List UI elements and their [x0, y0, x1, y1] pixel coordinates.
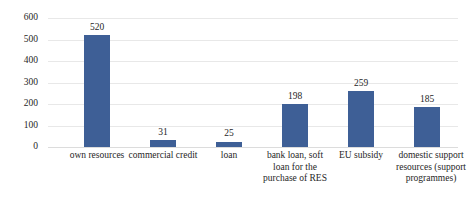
x-label-loan: loan	[198, 150, 260, 162]
bar-value-label: 25	[224, 129, 234, 139]
bar-commercial-credit[interactable]	[150, 140, 176, 147]
bar-slot: 31	[132, 18, 194, 147]
bar-value-label: 520	[90, 23, 104, 33]
bar-value-label: 259	[354, 79, 368, 89]
bar-slot: 198	[264, 18, 326, 147]
x-label-domestic-support-resources: domestic support resources (support prog…	[392, 150, 470, 185]
x-axis: own resources commercial credit loan ban…	[48, 150, 458, 214]
bar-value-label: 185	[420, 95, 434, 105]
bar-value-label: 31	[158, 128, 168, 138]
x-label-own-resources: own resources	[58, 150, 136, 162]
x-label-eu-subsidy: EU subsidy	[330, 150, 392, 162]
y-tick-label: 600	[24, 13, 38, 23]
y-tick-label: 100	[24, 121, 38, 131]
x-label-bank-loan-soft-loan-res: bank loan, soft loan for the purchase of…	[260, 150, 330, 185]
y-tick-label: 300	[24, 78, 38, 88]
bar-own-resources[interactable]	[84, 35, 110, 147]
bar-slot: 25	[198, 18, 260, 147]
bar-value-label: 198	[288, 92, 302, 102]
x-label-commercial-credit: commercial credit	[127, 150, 199, 162]
y-tick-label: 400	[24, 56, 38, 66]
bars-layer: 520 31 25 198 259 185	[48, 18, 458, 147]
y-axis: 600 500 400 300 200 100 0	[0, 18, 44, 147]
bar-loan[interactable]	[216, 142, 242, 147]
y-tick-label: 500	[24, 35, 38, 45]
bar-domestic-support-resources[interactable]	[414, 107, 440, 147]
bar-slot: 185	[396, 18, 458, 147]
y-tick-label: 200	[24, 99, 38, 109]
bar-slot: 259	[330, 18, 392, 147]
bar-eu-subsidy[interactable]	[348, 91, 374, 147]
y-tick-label: 0	[33, 142, 38, 152]
gridline-baseline	[48, 147, 458, 148]
bar-slot: 520	[66, 18, 128, 147]
bar-bank-loan-soft-loan-res[interactable]	[282, 104, 308, 147]
